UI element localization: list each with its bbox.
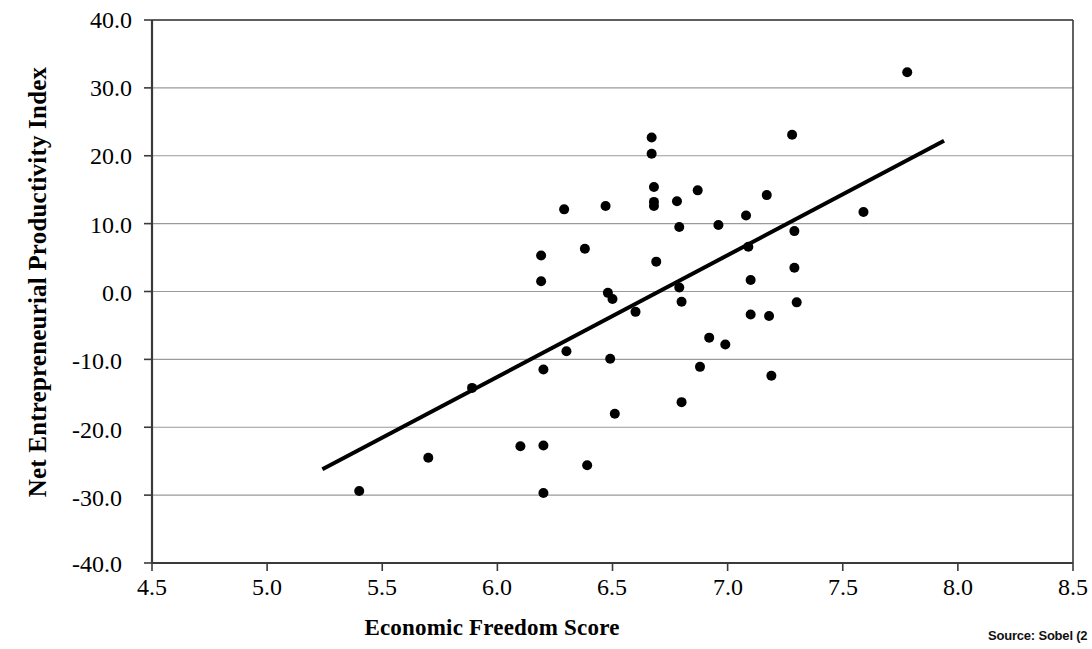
data-point xyxy=(610,409,620,419)
data-point xyxy=(789,263,799,273)
data-point xyxy=(902,67,912,77)
data-point xyxy=(746,310,756,320)
data-point xyxy=(766,371,776,381)
data-point xyxy=(704,333,714,343)
data-point xyxy=(536,251,546,261)
data-point xyxy=(741,210,751,220)
data-point xyxy=(649,182,659,192)
data-point xyxy=(693,185,703,195)
data-point xyxy=(789,226,799,236)
data-point xyxy=(762,190,772,200)
data-point xyxy=(467,383,477,393)
data-point xyxy=(601,201,611,211)
trendline-segment xyxy=(322,141,944,470)
data-point xyxy=(713,220,723,230)
data-point xyxy=(582,460,592,470)
data-point xyxy=(559,204,569,214)
data-point xyxy=(746,275,756,285)
data-point xyxy=(674,282,684,292)
data-point xyxy=(677,397,687,407)
data-point xyxy=(538,488,548,498)
data-point xyxy=(858,207,868,217)
data-point xyxy=(515,441,525,451)
data-point xyxy=(674,222,684,232)
data-point xyxy=(647,149,657,159)
data-point xyxy=(354,486,364,496)
data-point xyxy=(580,244,590,254)
data-point xyxy=(720,339,730,349)
data-point xyxy=(651,257,661,267)
data-point xyxy=(743,242,753,252)
data-points xyxy=(354,67,912,498)
data-point xyxy=(647,132,657,142)
data-point xyxy=(536,276,546,286)
data-point xyxy=(649,201,659,211)
trendline xyxy=(322,141,944,470)
data-point xyxy=(423,453,433,463)
data-point xyxy=(792,297,802,307)
data-point xyxy=(672,196,682,206)
data-point xyxy=(631,307,641,317)
data-point xyxy=(605,354,615,364)
data-point xyxy=(787,130,797,140)
data-point xyxy=(561,346,571,356)
data-point xyxy=(764,311,774,321)
data-point xyxy=(608,294,618,304)
data-point xyxy=(677,297,687,307)
data-point xyxy=(538,441,548,451)
data-point xyxy=(695,362,705,372)
data-point xyxy=(538,365,548,375)
